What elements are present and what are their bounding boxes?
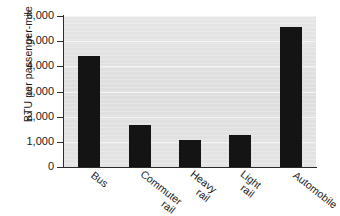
gridline <box>64 92 316 93</box>
bar-commuter-rail <box>129 125 151 167</box>
y-axis-line <box>63 15 64 168</box>
plot-area <box>64 16 316 167</box>
y-tick-label: 6,000 <box>26 10 54 21</box>
x-axis-label-light-rail: Lightrail <box>232 168 264 199</box>
y-axis-title: BTU per passenger-mile <box>22 0 34 144</box>
x-axis-label-heavy-rail: Heavyrail <box>182 168 219 204</box>
bar-bus <box>78 56 100 167</box>
x-label-line: Automobile <box>291 169 340 211</box>
y-tick-mark <box>57 142 63 143</box>
y-tick-label: 4,000 <box>26 60 54 71</box>
x-axis-label-bus: Bus <box>89 170 110 190</box>
gridline <box>64 117 316 118</box>
y-tick-mark <box>57 41 63 42</box>
y-tick-label: 2,000 <box>26 111 54 122</box>
y-tick-label: 5,000 <box>26 35 54 46</box>
y-tick-label: 1,000 <box>26 136 54 147</box>
bar-automobile <box>280 27 302 167</box>
y-tick-mark <box>57 92 63 93</box>
gridline <box>64 16 316 17</box>
y-tick-mark <box>57 66 63 67</box>
y-tick-label: 0 <box>48 161 54 172</box>
x-axis-label-automobile: Automobile <box>291 170 339 211</box>
y-tick-mark <box>57 167 63 168</box>
x-axis-line <box>63 167 317 168</box>
gridline <box>64 66 316 67</box>
bar-heavy-rail <box>179 140 201 167</box>
y-tick-mark <box>57 16 63 17</box>
y-tick-label: 3,000 <box>26 86 54 97</box>
x-label-line: Bus <box>89 169 111 190</box>
bar-light-rail <box>229 135 251 167</box>
y-tick-mark <box>57 117 63 118</box>
x-axis-label-commuter-rail: Commuterrail <box>131 168 183 216</box>
gridline <box>64 41 316 42</box>
